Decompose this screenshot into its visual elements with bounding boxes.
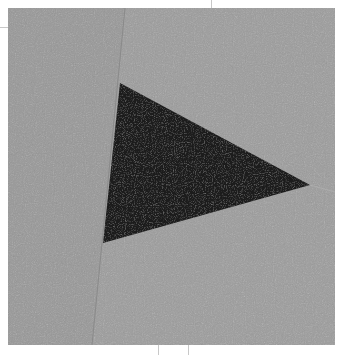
artwork [0,0,340,355]
